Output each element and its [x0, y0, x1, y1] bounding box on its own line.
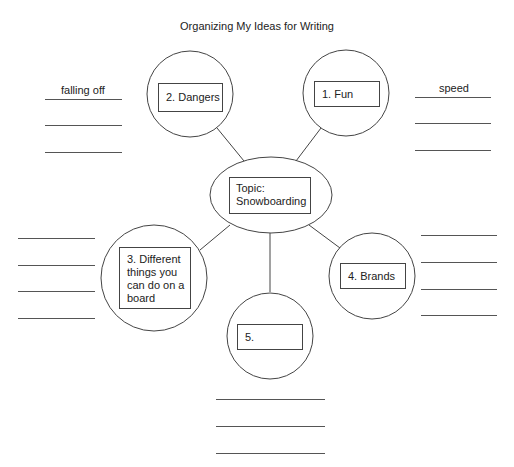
node-box-5[interactable]: 5. [237, 324, 303, 350]
detail-line-node5-3[interactable] [216, 453, 325, 454]
node-label-line: board [127, 292, 190, 305]
connector-different-things [200, 225, 230, 250]
node-box-brands[interactable]: 4. Brands [340, 263, 406, 289]
detail-line-different-things-1[interactable] [18, 238, 95, 239]
detail-line-brands-4[interactable] [421, 315, 497, 316]
node-box-different-things[interactable]: 3. Different things you can do on a boar… [119, 247, 191, 309]
detail-line-fun-3[interactable] [415, 150, 491, 151]
topic-box: Topic: Snowboarding [229, 177, 311, 214]
node-label-line: things you [127, 266, 190, 279]
connector-fun [296, 128, 321, 161]
detail-line-dangers-1[interactable] [45, 99, 122, 100]
detail-line-fun-1[interactable] [415, 97, 491, 98]
detail-line-brands-3[interactable] [421, 289, 497, 290]
topic-label-line2: Snowboarding [236, 195, 310, 208]
web-diagram-lines [0, 0, 514, 467]
topic-label-line1: Topic: [236, 182, 310, 195]
connector-brands [309, 225, 340, 248]
detail-line-dangers-2[interactable] [45, 125, 122, 126]
node-label-line: can do on a [127, 279, 190, 292]
detail-line-dangers-3[interactable] [45, 152, 122, 153]
node-label-dangers: 2. Dangers [166, 91, 222, 104]
detail-line-brands-1[interactable] [421, 235, 497, 236]
detail-line-node5-1[interactable] [216, 399, 325, 400]
detail-entry-dangers-1[interactable]: falling off [61, 84, 105, 96]
node-label-5: 5. [245, 331, 302, 344]
connector-dangers [217, 128, 244, 161]
node-label-fun: 1. Fun [322, 88, 379, 101]
detail-line-different-things-2[interactable] [18, 265, 95, 266]
node-label-line: 3. Different [127, 253, 190, 266]
node-label-brands: 4. Brands [348, 270, 405, 283]
detail-entry-fun-1[interactable]: speed [439, 82, 469, 94]
node-box-dangers[interactable]: 2. Dangers [158, 83, 223, 112]
detail-line-brands-2[interactable] [421, 262, 497, 263]
detail-line-different-things-4[interactable] [18, 318, 95, 319]
detail-line-different-things-3[interactable] [18, 291, 95, 292]
detail-line-node5-2[interactable] [216, 426, 325, 427]
node-box-fun[interactable]: 1. Fun [314, 81, 380, 107]
detail-line-fun-2[interactable] [415, 123, 491, 124]
page-title: Organizing My Ideas for Writing [0, 20, 514, 32]
